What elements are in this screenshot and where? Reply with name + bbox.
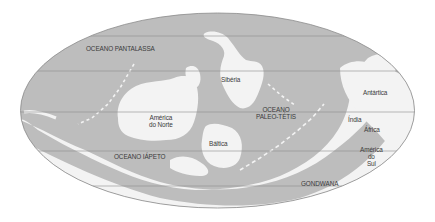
label-africa: África — [364, 126, 380, 133]
label-oceano-iapeto: OCEANO IÁPETO — [114, 153, 166, 160]
label-oceano-paleo-tetis: OCEANO PALEO-TÉTIS — [256, 106, 296, 120]
label-antartica: Antártica — [363, 89, 387, 96]
paleogeographic-map — [0, 0, 435, 222]
label-siberia: Sibéria — [221, 76, 240, 83]
label-india: Índia — [348, 116, 361, 123]
label-baltica: Báltica — [209, 140, 227, 147]
label-america-do-sul: América do Sul — [360, 146, 383, 167]
label-america-do-norte: América do Norte — [149, 114, 173, 128]
label-oceano-pantalassa: OCEANO PANTALASSA — [86, 45, 155, 52]
label-gondwana: GONDWANA — [301, 180, 338, 187]
